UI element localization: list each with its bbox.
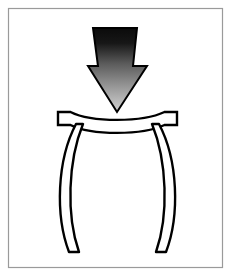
buckling-diagram-svg [0,0,233,277]
figure-root [0,0,233,277]
